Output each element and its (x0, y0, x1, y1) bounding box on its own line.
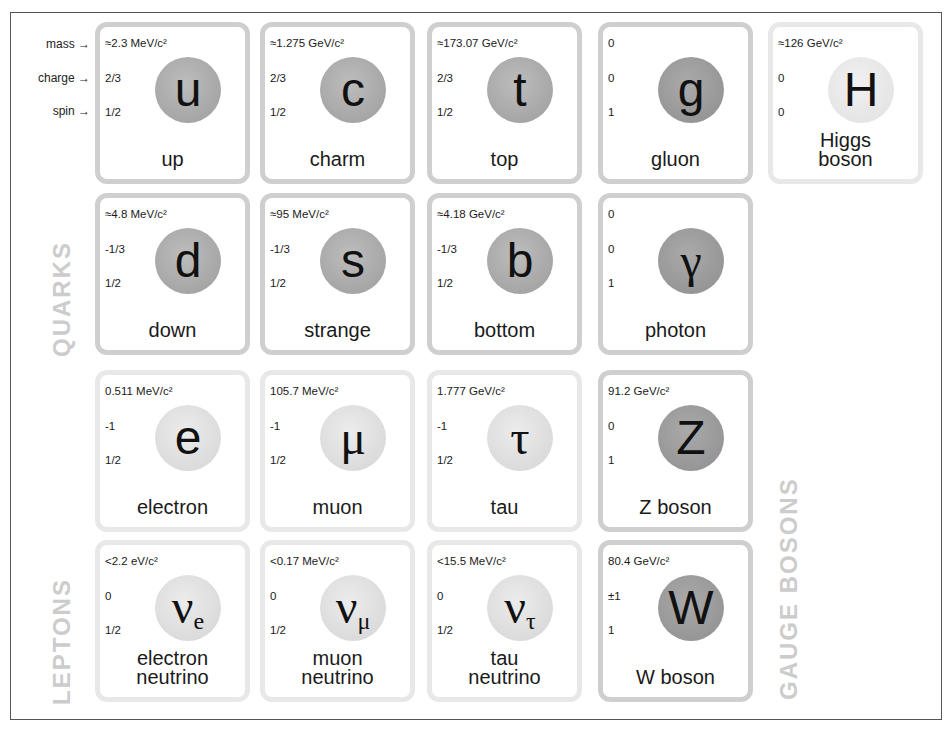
charge-value: -1 (105, 420, 115, 432)
charge-value: 2/3 (437, 72, 453, 84)
electron-neutrino-icon: νe (155, 575, 221, 641)
particle-card-tau-neutrino[interactable]: <15.5 MeV/c² 0 1/2 ντ tauneutrino (427, 540, 582, 702)
charge-value: 2/3 (105, 72, 121, 84)
spin-value: 1/2 (437, 277, 453, 289)
z-boson-icon: Z (658, 405, 724, 471)
particle-name: muon (265, 498, 410, 517)
spin-value: 1/2 (105, 624, 121, 636)
particle-card-down[interactable]: ≈4.8 MeV/c² -1/3 1/2 d down (95, 193, 250, 355)
particle-card-z-boson[interactable]: 91.2 GeV/c² 0 1 Z Z boson (598, 370, 753, 532)
particle-name: down (100, 321, 245, 340)
bottom-quark-icon: b (487, 228, 553, 294)
mass-value: 0 (608, 37, 614, 49)
charge-value: 0 (608, 72, 614, 84)
charge-value: 0 (608, 420, 614, 432)
charge-value: 0 (778, 72, 784, 84)
legend-charge: charge → (10, 71, 90, 85)
mass-value: 80.4 GeV/c² (608, 555, 669, 567)
up-quark-icon: u (155, 57, 221, 123)
down-quark-icon: d (155, 228, 221, 294)
particle-name: charm (265, 150, 410, 169)
charge-value: -1/3 (437, 243, 457, 255)
spin-value: 0 (778, 106, 784, 118)
charge-value: -1/3 (270, 243, 290, 255)
group-label-quarks: QUARKS (48, 241, 76, 357)
particle-card-higgs[interactable]: ≈126 GeV/c² 0 0 H Higgsboson (768, 22, 923, 184)
particle-card-top[interactable]: ≈173.07 GeV/c² 2/3 1/2 t top (427, 22, 582, 184)
higgs-boson-icon: H (828, 57, 894, 123)
mass-value: ≈126 GeV/c² (778, 37, 842, 49)
particle-name: Higgsboson (773, 131, 918, 169)
particle-card-bottom[interactable]: ≈4.18 GeV/c² -1/3 1/2 b bottom (427, 193, 582, 355)
mass-value: 1.777 GeV/c² (437, 385, 505, 397)
mass-value: <15.5 MeV/c² (437, 555, 506, 567)
spin-value: 1/2 (437, 454, 453, 466)
tau-neutrino-icon: ντ (487, 575, 553, 641)
charge-value: 0 (105, 590, 111, 602)
photon-icon: γ (658, 228, 724, 294)
mass-value: <2.2 eV/c² (105, 555, 158, 567)
spin-value: 1/2 (270, 454, 286, 466)
particle-name: photon (603, 321, 748, 340)
particle-card-electron[interactable]: 0.511 MeV/c² -1 1/2 e electron (95, 370, 250, 532)
mass-value: 0 (608, 208, 614, 220)
electron-icon: e (155, 405, 221, 471)
spin-value: 1 (608, 277, 614, 289)
particle-name: up (100, 150, 245, 169)
mass-value: <0.17 MeV/c² (270, 555, 339, 567)
tau-icon: τ (487, 405, 553, 471)
legend-mass: mass → (10, 37, 90, 51)
particle-name: tau (432, 498, 577, 517)
particle-card-gluon[interactable]: 0 0 1 g gluon (598, 22, 753, 184)
particle-card-photon[interactable]: 0 0 1 γ photon (598, 193, 753, 355)
group-label-leptons: LEPTONS (48, 578, 76, 705)
particle-card-muon-neutrino[interactable]: <0.17 MeV/c² 0 1/2 νμ muonneutrino (260, 540, 415, 702)
group-label-gauge-bosons: GAUGE BOSONS (775, 477, 803, 700)
mass-value: 0.511 MeV/c² (105, 385, 173, 397)
particle-card-electron-neutrino[interactable]: <2.2 eV/c² 0 1/2 νe electronneutrino (95, 540, 250, 702)
muon-icon: μ (320, 405, 386, 471)
charge-value: -1 (270, 420, 280, 432)
particle-name: electronneutrino (100, 649, 245, 687)
particle-card-tau[interactable]: 1.777 GeV/c² -1 1/2 τ tau (427, 370, 582, 532)
charm-quark-icon: c (320, 57, 386, 123)
charge-value: 0 (608, 243, 614, 255)
spin-value: 1/2 (105, 454, 121, 466)
spin-value: 1/2 (270, 624, 286, 636)
charge-value: 0 (270, 590, 276, 602)
spin-value: 1/2 (105, 106, 121, 118)
particle-card-w-boson[interactable]: 80.4 GeV/c² ±1 1 W W boson (598, 540, 753, 702)
particle-card-muon[interactable]: 105.7 MeV/c² -1 1/2 μ muon (260, 370, 415, 532)
particle-card-charm[interactable]: ≈1.275 GeV/c² 2/3 1/2 c charm (260, 22, 415, 184)
particle-name: gluon (603, 150, 748, 169)
spin-value: 1/2 (270, 277, 286, 289)
particle-name: muonneutrino (265, 649, 410, 687)
mass-value: ≈2.3 MeV/c² (105, 37, 167, 49)
spin-value: 1 (608, 106, 614, 118)
spin-value: 1/2 (437, 624, 453, 636)
particle-name: W boson (603, 668, 748, 687)
particle-card-up[interactable]: ≈2.3 MeV/c² 2/3 1/2 u up (95, 22, 250, 184)
spin-value: 1/2 (105, 277, 121, 289)
top-quark-icon: t (487, 57, 553, 123)
mass-value: 105.7 MeV/c² (270, 385, 338, 397)
particle-card-strange[interactable]: ≈95 MeV/c² -1/3 1/2 s strange (260, 193, 415, 355)
mass-value: ≈4.18 GeV/c² (437, 208, 505, 220)
particle-name: strange (265, 321, 410, 340)
mass-value: ≈1.275 GeV/c² (270, 37, 344, 49)
spin-value: 1/2 (437, 106, 453, 118)
mass-value: ≈95 MeV/c² (270, 208, 329, 220)
mass-value: 91.2 GeV/c² (608, 385, 669, 397)
particle-name: top (432, 150, 577, 169)
spin-value: 1 (608, 454, 614, 466)
particle-name: bottom (432, 321, 577, 340)
w-boson-icon: W (658, 575, 724, 641)
legend-spin: spin → (10, 104, 90, 118)
particle-name: electron (100, 498, 245, 517)
mass-value: ≈173.07 GeV/c² (437, 37, 517, 49)
charge-value: 0 (437, 590, 443, 602)
strange-quark-icon: s (320, 228, 386, 294)
particle-name: Z boson (603, 498, 748, 517)
spin-value: 1/2 (270, 106, 286, 118)
charge-value: -1 (437, 420, 447, 432)
